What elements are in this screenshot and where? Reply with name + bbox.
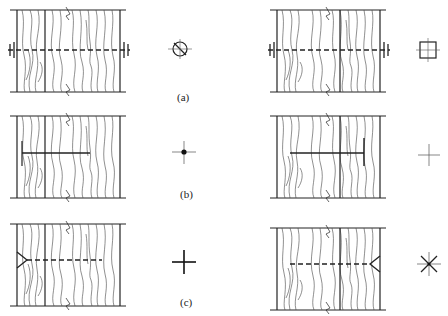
plain-cross-icon [418, 144, 440, 166]
board-c-left [10, 221, 126, 310]
square-cross-icon [416, 38, 440, 62]
asterisk-icon [417, 252, 441, 276]
caption-a: (a) [177, 91, 189, 103]
board-c-right [270, 225, 386, 314]
diagram-canvas [0, 0, 448, 316]
board-a-right [268, 7, 390, 96]
dot-cross-icon [172, 141, 196, 164]
board-a-left [8, 7, 130, 96]
circle-slash-icon [168, 39, 192, 59]
caption-b: (b) [180, 188, 193, 200]
bold-cross-icon [172, 250, 196, 274]
board-b-right [270, 113, 386, 202]
caption-c: (c) [180, 296, 192, 308]
board-b-left [10, 113, 126, 202]
